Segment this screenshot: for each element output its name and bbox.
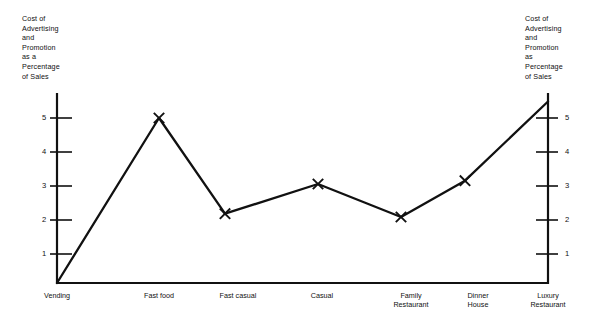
plot-area (0, 0, 595, 315)
data-series-line (57, 102, 548, 284)
left-axis-ticks (50, 118, 72, 254)
line-chart: Cost of Advertising and Promotion as a P… (0, 0, 595, 315)
